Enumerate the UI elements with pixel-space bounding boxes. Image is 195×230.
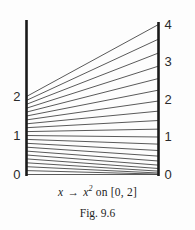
- mapping-line: [27, 143, 159, 150]
- figure-number: Fig. 9.6: [0, 207, 195, 219]
- mapping-line: [27, 129, 159, 131]
- mapping-line: [27, 151, 159, 161]
- figure-container: 210 43210 x → x2 on [0, 2] Fig. 9.6: [0, 0, 195, 230]
- right-axis-tick-label-4: 4: [165, 18, 181, 31]
- right-axis-tick-label-3: 3: [165, 55, 181, 68]
- mapping-line: [27, 39, 159, 100]
- map-caption: x → x2 on [0, 2]: [0, 184, 195, 198]
- mapping-line: [27, 139, 159, 144]
- mapping-line: [27, 90, 159, 116]
- right-arrow-icon: →: [66, 186, 80, 198]
- mapping-line: [27, 66, 159, 108]
- mapping-line: [27, 147, 159, 156]
- mapping-line-group: [27, 25, 159, 175]
- caption-domain-text: on [0, 2]: [96, 186, 137, 198]
- caption-block: x → x2 on [0, 2] Fig. 9.6: [0, 184, 195, 219]
- right-axis-tick-label-1: 1: [165, 130, 181, 143]
- mapping-diagram-plot: 210 43210: [0, 0, 195, 186]
- right-axis-tick-label-2: 2: [165, 93, 181, 106]
- right-axis-tick-label-0: 0: [165, 168, 181, 181]
- left-axis-tick-label-1: 1: [5, 129, 21, 142]
- left-axis-tick-label-0: 0: [5, 168, 21, 181]
- caption-function-exponent: 2: [89, 184, 93, 193]
- caption-domain-variable: x: [58, 186, 63, 198]
- mapping-line: [27, 136, 159, 138]
- left-axis-tick-label-2: 2: [5, 90, 21, 103]
- mapping-line: [27, 79, 159, 113]
